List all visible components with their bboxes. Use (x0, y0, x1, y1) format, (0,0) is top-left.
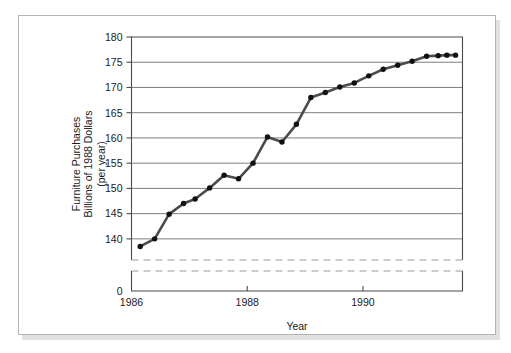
gridlines (132, 62, 463, 239)
axis-titles: YearFurniture PurchasesBillions of 1988 … (70, 111, 309, 332)
data-point-7 (236, 176, 241, 181)
x-tick-label-1990: 1990 (351, 296, 375, 308)
y-tick-label-140: 140 (105, 233, 123, 245)
data-point-13 (323, 90, 328, 95)
y-tick-label-175: 175 (105, 56, 123, 68)
y-axis-title-line-0: Furniture Purchases (70, 117, 82, 212)
data-point-2 (166, 211, 171, 216)
y-axis-title-line-2: (per year) (95, 141, 107, 187)
data-point-11 (294, 122, 299, 127)
y-tick-label-165: 165 (105, 107, 123, 119)
x-tick-label-1986: 1986 (120, 296, 144, 308)
data-point-6 (221, 173, 226, 178)
y-tick-label-150: 150 (105, 182, 123, 194)
y-tick-label-155: 155 (105, 157, 123, 169)
data-point-21 (436, 53, 441, 58)
y-tick-label-180: 180 (105, 31, 123, 43)
series-line (140, 55, 455, 246)
axis-break-stub (132, 271, 463, 291)
axis-break-marks (132, 260, 463, 271)
x-tick-label-1988: 1988 (236, 296, 260, 308)
line-chart: 1401451501551601651701751800 19861988199… (0, 0, 511, 353)
data-point-10 (279, 139, 284, 144)
data-point-15 (352, 80, 357, 85)
y-tick-label-170: 170 (105, 81, 123, 93)
data-point-1 (152, 236, 157, 241)
y-tick-label-145: 145 (105, 207, 123, 219)
plot-frame (132, 37, 463, 260)
data-point-9 (265, 134, 270, 139)
x-axis-title: Year (286, 320, 308, 332)
figure-root: 1401451501551601651701751800 19861988199… (0, 0, 511, 353)
y-axis-ticks: 1401451501551601651701751800 (105, 31, 132, 297)
data-point-3 (181, 201, 186, 206)
data-point-19 (409, 59, 414, 64)
data-point-8 (250, 160, 255, 165)
data-point-12 (308, 95, 313, 100)
data-point-20 (424, 53, 429, 58)
main-panel-frame (132, 37, 463, 260)
y-axis-title-line-1: Billions of 1988 Dollars (82, 111, 94, 218)
data-point-5 (207, 185, 212, 190)
x-axis-ticks: 198619881990 (120, 286, 375, 308)
stub-frame (132, 271, 463, 291)
data-point-18 (395, 63, 400, 68)
data-point-17 (381, 67, 386, 72)
data-point-14 (337, 84, 342, 89)
y-axis-title: Furniture PurchasesBillions of 1988 Doll… (70, 111, 107, 218)
y-tick-label-160: 160 (105, 132, 123, 144)
data-series (137, 52, 458, 249)
data-point-4 (192, 196, 197, 201)
data-point-0 (137, 244, 142, 249)
data-point-23 (453, 52, 458, 57)
data-point-22 (444, 52, 449, 57)
data-point-16 (366, 73, 371, 78)
